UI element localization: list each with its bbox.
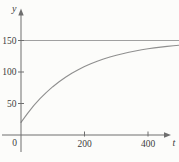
x-axis-label: t (173, 137, 176, 148)
y-axis-arrowhead-icon (18, 9, 23, 16)
y-tick-label: 100 (2, 67, 17, 77)
origin-label: 0 (12, 138, 17, 148)
y-tick-label: 150 (2, 36, 17, 46)
y-axis-label: y (11, 3, 17, 14)
x-axis-arrowhead-icon (164, 132, 171, 137)
data-curve (21, 45, 179, 122)
chart-canvas: 501001502004000yt (0, 0, 179, 162)
x-tick-label: 200 (77, 139, 92, 149)
exponential-approach-chart: 501001502004000yt (0, 0, 179, 162)
y-tick-label: 50 (7, 99, 17, 109)
x-tick-label: 400 (141, 139, 156, 149)
